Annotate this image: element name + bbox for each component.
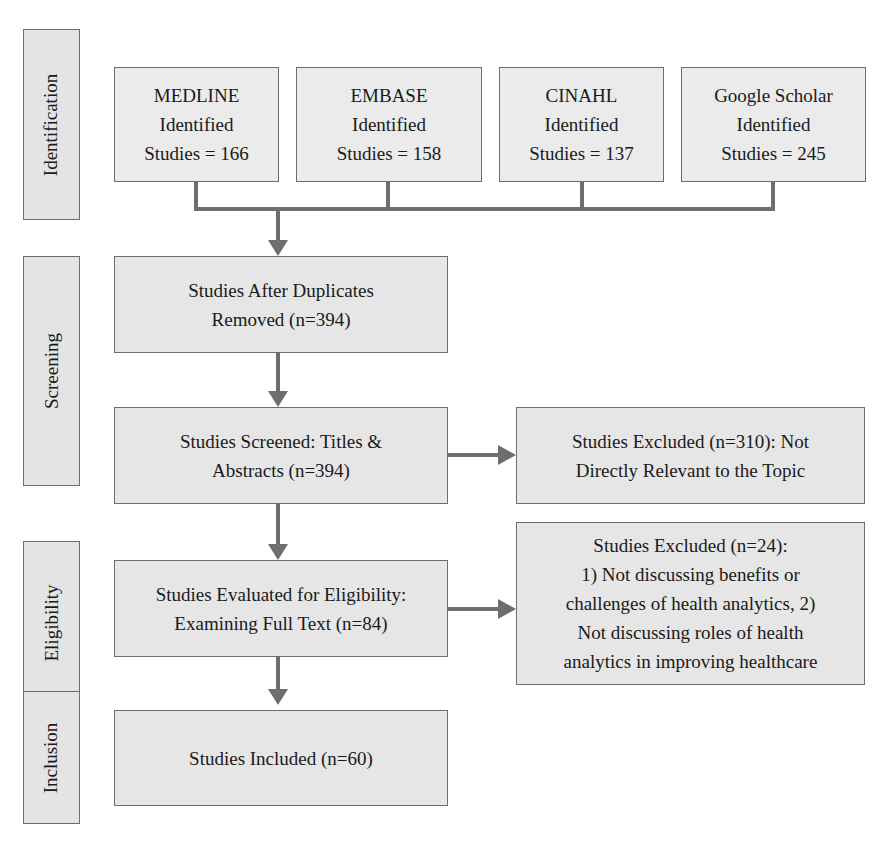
arrow-down-icon [268, 544, 288, 560]
excluded-eligibility-box: Studies Excluded (n=24): 1) Not discussi… [516, 522, 865, 685]
excluded-eligibility-text: Studies Excluded (n=24): 1) Not discussi… [564, 531, 818, 676]
phase-identification: Identification [23, 29, 80, 220]
source-name: EMBASE [337, 81, 442, 110]
phase-eligibility-label: Eligibility [41, 584, 63, 661]
source-medline-box: MEDLINE Identified Studies = 166 [114, 67, 279, 182]
arrow-right-icon [498, 599, 516, 619]
connector-merge-down [276, 209, 280, 241]
connector-merge-bar [194, 207, 775, 211]
source-name: Google Scholar [714, 81, 833, 110]
connector-dup-to-screened [276, 352, 280, 392]
arrow-down-icon [268, 689, 288, 705]
source-count: Studies = 137 [529, 139, 634, 168]
phase-eligibility: Eligibility [23, 541, 80, 704]
source-label: Identified [337, 110, 442, 139]
connector-eligibility-to-included [276, 656, 280, 690]
source-embase-box: EMBASE Identified Studies = 158 [296, 67, 482, 182]
source-count: Studies = 245 [714, 139, 833, 168]
phase-inclusion: Inclusion [23, 691, 80, 824]
connector-eligibility-to-excluded [447, 607, 499, 611]
source-label: Identified [529, 110, 634, 139]
duplicates-removed-text: Studies After Duplicates Removed (n=394) [188, 276, 374, 334]
phase-screening: Screening [23, 256, 80, 486]
phase-screening-label: Screening [41, 333, 63, 409]
phase-inclusion-label: Inclusion [41, 722, 63, 793]
arrow-down-icon [268, 391, 288, 407]
screened-box: Studies Screened: Titles & Abstracts (n=… [114, 407, 448, 504]
source-cinahl-box: CINAHL Identified Studies = 137 [499, 67, 664, 182]
source-label: Identified [714, 110, 833, 139]
eligibility-box: Studies Evaluated for Eligibility: Exami… [114, 560, 448, 657]
source-count: Studies = 166 [144, 139, 249, 168]
connector-screened-to-excluded [447, 453, 499, 457]
excluded-screening-text: Studies Excluded (n=310): Not Directly R… [572, 427, 809, 485]
source-google-scholar-box: Google Scholar Identified Studies = 245 [681, 67, 866, 182]
source-name: MEDLINE [144, 81, 249, 110]
source-label: Identified [144, 110, 249, 139]
included-text: Studies Included (n=60) [189, 744, 373, 773]
duplicates-removed-box: Studies After Duplicates Removed (n=394) [114, 256, 448, 353]
screened-text: Studies Screened: Titles & Abstracts (n=… [180, 427, 382, 485]
arrow-down-icon [268, 240, 288, 256]
phase-identification-label: Identification [41, 73, 63, 175]
arrow-right-icon [498, 445, 516, 465]
excluded-screening-box: Studies Excluded (n=310): Not Directly R… [516, 407, 865, 504]
source-count: Studies = 158 [337, 139, 442, 168]
included-box: Studies Included (n=60) [114, 710, 448, 806]
eligibility-text: Studies Evaluated for Eligibility: Exami… [156, 580, 407, 638]
connector-screened-to-eligibility [276, 503, 280, 545]
source-name: CINAHL [529, 81, 634, 110]
